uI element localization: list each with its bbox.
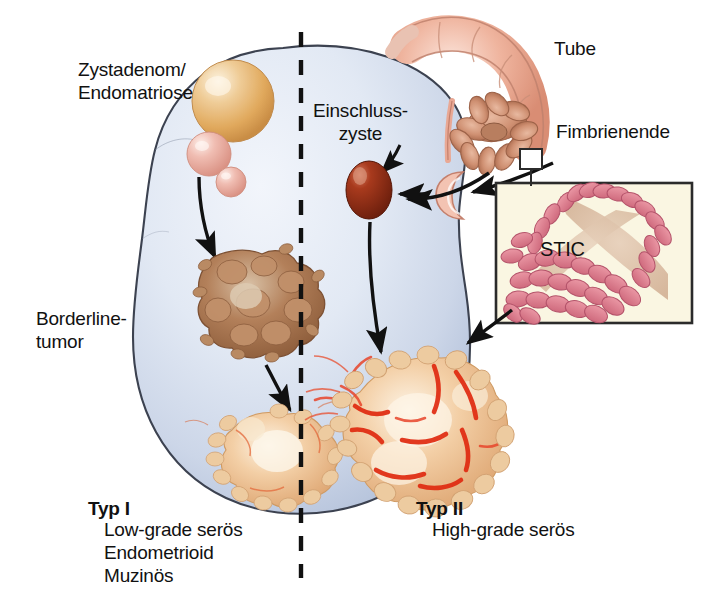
label-einschlusszyste: Einschluss- zyste [313,99,408,145]
label-typ2-title: Typ II [416,497,463,520]
label-typ1-entities: Low-grade serös Endometrioid Muzinös [104,518,243,588]
ovarian-carcinogenesis-figure: Zystadenom/ Endomatriose Einschluss- zys… [0,0,708,608]
label-typ1-title: Typ I [88,497,130,520]
stic-callout-marker [520,149,542,169]
label-zystadenom-endometriose: Zystadenom/ Endomatriose [78,58,193,104]
cortical-cyst-large [192,60,274,142]
label-borderline-tumor: Borderline- tumor [36,307,127,353]
label-stic: STIC [540,237,585,261]
label-fimbrienende: Fimbrienende [556,120,670,143]
label-tube: Tube [554,37,596,60]
label-typ2-entities: High-grade serös [432,518,575,541]
arrow-stic-to-typ2-carcinoma [468,310,512,343]
inclusion-cyst [346,161,392,219]
cortical-cyst-small [216,167,246,197]
